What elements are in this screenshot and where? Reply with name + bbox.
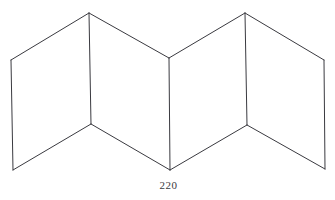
panel-faces: [11, 13, 325, 170]
figure-number: 220: [160, 179, 178, 192]
panel-1-left-outer: [11, 13, 91, 170]
accordion-fold-diagram: [0, 0, 335, 200]
figure-container: 220: [0, 0, 335, 200]
figure-caption: 220: [0, 179, 335, 192]
panel-3-right-inner: [169, 13, 247, 170]
